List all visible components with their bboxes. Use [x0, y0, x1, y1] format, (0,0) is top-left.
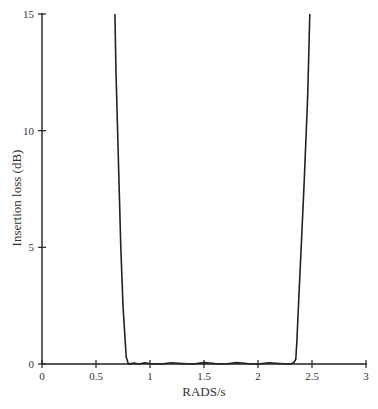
x-tick-label: 3: [363, 370, 369, 382]
x-tick-label: 0.5: [89, 370, 103, 382]
x-tick-label: 1.5: [197, 370, 211, 382]
y-axis-title: Insertion loss (dB): [9, 150, 24, 247]
x-tick-label: 2.5: [305, 370, 319, 382]
y-tick-label: 10: [23, 125, 35, 137]
y-tick-label: 5: [29, 241, 35, 253]
insertion-loss-chart: 051015 00.511.522.53 Insertion loss (dB)…: [0, 0, 378, 409]
x-tick-label: 0: [39, 370, 45, 382]
x-tick-label: 1: [147, 370, 153, 382]
x-tick-label: 2: [255, 370, 261, 382]
y-tick-label: 0: [29, 358, 35, 370]
y-tick-label: 15: [23, 8, 35, 20]
insertion-loss-curve: [115, 14, 310, 364]
y-axis: 051015: [23, 8, 46, 370]
x-axis-title: RADS/s: [182, 384, 225, 399]
